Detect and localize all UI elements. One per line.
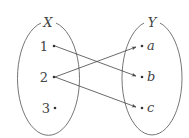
mapping-diagram: X Y 1 2 3 a b c: [0, 0, 189, 138]
element-3-label: 3: [42, 101, 50, 116]
set-y-label: Y: [148, 15, 158, 30]
element-c-dot: [141, 107, 144, 110]
set-x: X: [17, 15, 79, 135]
element-2-dot: [53, 76, 56, 79]
element-b-label: b: [147, 69, 155, 84]
set-y-elements: a b c: [141, 38, 156, 115]
arrow-2-to-c: [55, 77, 136, 107]
element-b-dot: [141, 76, 144, 79]
arrow-2-to-a: [55, 47, 136, 77]
element-c-label: c: [147, 100, 155, 115]
arrow-1-to-b: [55, 46, 136, 76]
element-2-label: 2: [40, 70, 48, 85]
set-x-label: X: [42, 15, 53, 30]
set-x-ellipse: [17, 23, 79, 135]
element-3-dot: [54, 107, 57, 110]
element-1-dot: [53, 45, 56, 48]
element-a-label: a: [147, 38, 155, 53]
element-1-label: 1: [40, 39, 48, 54]
set-x-elements: 1 2 3: [40, 39, 57, 116]
element-a-dot: [141, 45, 144, 48]
